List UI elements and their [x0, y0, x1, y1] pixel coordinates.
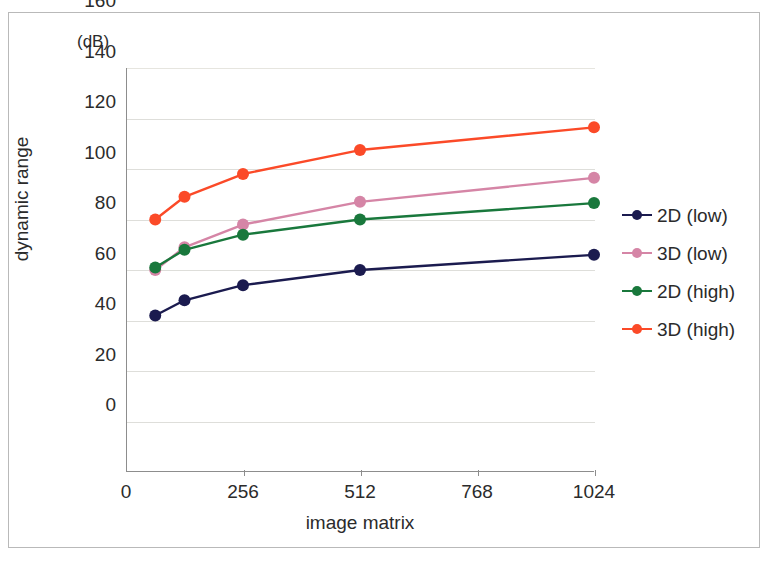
legend-item-3d-high[interactable]: 3D (high)	[622, 310, 762, 348]
legend-item-2d-high[interactable]: 2D (high)	[622, 272, 762, 310]
chart-legend: 2D (low)3D (low)2D (high)3D (high)	[622, 196, 762, 348]
legend-item-label: 3D (low)	[657, 244, 728, 263]
x-axis-tick	[361, 470, 362, 476]
legend-marker-icon	[622, 284, 652, 298]
y-axis-tick-label: 60	[95, 244, 116, 263]
x-axis-tick-label: 256	[227, 482, 259, 501]
x-axis-tick	[244, 470, 245, 476]
y-axis-tick-label: 120	[84, 92, 116, 111]
legend-item-2d-low[interactable]: 2D (low)	[622, 196, 762, 234]
x-axis-tick	[595, 470, 596, 476]
gridline	[127, 119, 595, 120]
gridline	[127, 371, 595, 372]
x-axis-tick-label: 0	[121, 482, 132, 501]
plot-area	[126, 68, 594, 472]
legend-item-3d-low[interactable]: 3D (low)	[622, 234, 762, 272]
y-axis-tick-label: 140	[84, 42, 116, 61]
gridline	[127, 169, 595, 170]
y-axis-tick-label: 40	[95, 294, 116, 313]
y-axis-tick-label: 20	[95, 345, 116, 364]
y-axis-title: dynamic range	[11, 99, 33, 299]
legend-item-label: 2D (high)	[657, 282, 735, 301]
gridline	[127, 220, 595, 221]
y-axis-tick-labels: 020406080100120140160	[58, 0, 116, 404]
y-axis-tick-label: 80	[95, 193, 116, 212]
gridline	[127, 422, 595, 423]
gridline	[127, 321, 595, 322]
x-axis-tick	[478, 470, 479, 476]
line-chart: (dB) dynamic range 020406080100120140160…	[0, 0, 776, 573]
legend-marker-icon	[622, 246, 652, 260]
y-axis-tick-label: 160	[84, 0, 116, 10]
x-axis-title: image matrix	[126, 512, 594, 534]
legend-marker-icon	[622, 208, 652, 222]
y-axis-tick-label: 100	[84, 143, 116, 162]
legend-marker-icon	[622, 322, 652, 336]
y-axis-tick-label: 0	[105, 395, 116, 414]
legend-item-label: 2D (low)	[657, 206, 728, 225]
legend-item-label: 3D (high)	[657, 320, 735, 339]
x-axis-tick-label: 512	[344, 482, 376, 501]
x-axis-tick-label: 1024	[573, 482, 615, 501]
gridline	[127, 68, 595, 69]
x-axis-tick-label: 768	[461, 482, 493, 501]
gridline	[127, 270, 595, 271]
